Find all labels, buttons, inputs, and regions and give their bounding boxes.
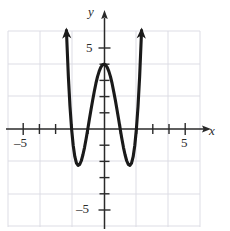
x-tick-label-pos5: 5 <box>181 136 188 149</box>
graph-figure: y x –5 5 5 –5 <box>0 0 230 231</box>
graph-canvas <box>0 0 230 231</box>
x-axis-label: x <box>209 124 215 137</box>
x-tick-label-neg5: –5 <box>14 136 27 149</box>
y-tick-label-pos5: 5 <box>86 41 93 54</box>
x-axis <box>6 126 211 133</box>
y-axis <box>101 10 108 229</box>
y-tick-label-neg5: –5 <box>76 202 89 215</box>
y-axis-label: y <box>88 5 94 18</box>
